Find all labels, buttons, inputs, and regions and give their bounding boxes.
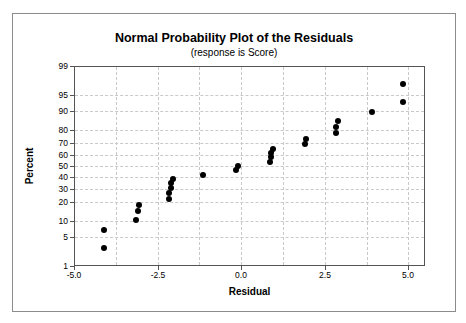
vertical-gridline bbox=[158, 67, 159, 265]
y-axis-label: Percent bbox=[24, 136, 36, 196]
vertical-gridline bbox=[283, 67, 284, 265]
horizontal-gridline bbox=[75, 95, 424, 96]
probability-plot-figure: Normal Probability Plot of the Residuals… bbox=[0, 0, 466, 323]
horizontal-gridline bbox=[75, 130, 424, 131]
data-point bbox=[133, 217, 139, 223]
vertical-gridline bbox=[199, 67, 200, 265]
vertical-gridline bbox=[408, 67, 409, 265]
data-point bbox=[200, 172, 206, 178]
vertical-gridline bbox=[367, 67, 368, 265]
horizontal-gridline bbox=[75, 155, 424, 156]
y-axis-tick bbox=[70, 95, 74, 96]
data-point bbox=[303, 136, 309, 142]
y-axis-tick bbox=[70, 66, 74, 67]
x-tick-label: -2.5 bbox=[143, 270, 173, 280]
y-tick-label: 20 bbox=[52, 197, 68, 207]
data-point bbox=[369, 109, 375, 115]
y-tick-label: 80 bbox=[52, 125, 68, 135]
y-axis-tick bbox=[70, 155, 74, 156]
y-axis-tick bbox=[70, 143, 74, 144]
vertical-gridline bbox=[116, 67, 117, 265]
data-point bbox=[170, 176, 176, 182]
data-point bbox=[235, 163, 241, 169]
y-tick-label: 70 bbox=[52, 138, 68, 148]
horizontal-gridline bbox=[75, 177, 424, 178]
data-point bbox=[270, 146, 276, 152]
y-tick-label: 30 bbox=[52, 184, 68, 194]
y-tick-label: 95 bbox=[52, 90, 68, 100]
y-axis-tick bbox=[70, 202, 74, 203]
data-point bbox=[135, 208, 141, 214]
chart-title: Normal Probability Plot of the Residuals bbox=[12, 31, 456, 45]
horizontal-gridline bbox=[75, 237, 424, 238]
horizontal-gridline bbox=[75, 189, 424, 190]
data-point bbox=[333, 124, 339, 130]
y-axis-tick bbox=[70, 111, 74, 112]
data-point bbox=[136, 202, 142, 208]
y-tick-label: 90 bbox=[52, 106, 68, 116]
horizontal-gridline bbox=[75, 166, 424, 167]
y-axis-tick bbox=[70, 130, 74, 131]
y-tick-label: 99 bbox=[52, 61, 68, 71]
data-point bbox=[400, 99, 406, 105]
data-point bbox=[400, 81, 406, 87]
y-axis-tick bbox=[70, 166, 74, 167]
vertical-gridline bbox=[325, 67, 326, 265]
data-point bbox=[335, 118, 341, 124]
y-tick-label: 10 bbox=[52, 216, 68, 226]
data-point bbox=[101, 227, 107, 233]
horizontal-gridline bbox=[75, 221, 424, 222]
y-axis-tick bbox=[70, 237, 74, 238]
x-tick-label: 2.5 bbox=[310, 270, 340, 280]
y-axis-tick bbox=[70, 221, 74, 222]
y-tick-label: 40 bbox=[52, 172, 68, 182]
x-tick-label: 5.0 bbox=[393, 270, 423, 280]
y-tick-label: 60 bbox=[52, 150, 68, 160]
vertical-gridline bbox=[241, 67, 242, 265]
y-tick-label: 50 bbox=[52, 161, 68, 171]
y-axis-tick bbox=[70, 177, 74, 178]
y-axis-tick bbox=[70, 189, 74, 190]
horizontal-gridline bbox=[75, 143, 424, 144]
data-point bbox=[101, 245, 107, 251]
data-point bbox=[166, 196, 172, 202]
chart-subtitle: (response is Score) bbox=[12, 47, 456, 58]
data-point bbox=[333, 130, 339, 136]
horizontal-gridline bbox=[75, 202, 424, 203]
x-tick-label: 0.0 bbox=[226, 270, 256, 280]
x-tick-label: -5.0 bbox=[59, 270, 89, 280]
x-axis-label: Residual bbox=[74, 286, 425, 297]
y-tick-label: 5 bbox=[52, 232, 68, 242]
